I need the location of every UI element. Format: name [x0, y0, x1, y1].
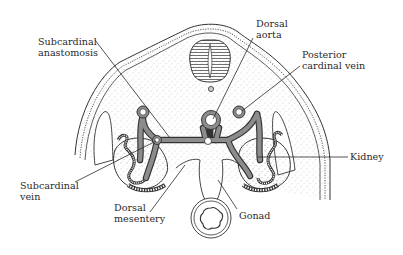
label-kidney: Kidney	[350, 151, 384, 162]
svg-text:cardinal vein: cardinal vein	[302, 60, 365, 71]
label-dorsal-aorta: Dorsal	[256, 18, 288, 29]
dorsal-aorta	[202, 111, 221, 130]
notochord	[208, 86, 213, 91]
embryo-cross-section-diagram: Subcardinal anastomosis Dorsal aorta Pos…	[0, 0, 403, 255]
svg-text:aorta: aorta	[256, 29, 282, 40]
label-posterior-cardinal-vein: Posterior	[302, 49, 347, 60]
neural-tube	[190, 40, 231, 82]
label-subcardinal-vein: Subcardinal	[20, 180, 79, 191]
svg-text:anastomosis: anastomosis	[38, 47, 98, 58]
label-dorsal-mesentery: Dorsal	[114, 202, 146, 213]
label-gonad: Gonad	[239, 210, 270, 221]
svg-text:vein: vein	[19, 191, 40, 202]
svg-text:mesentery: mesentery	[114, 213, 166, 224]
label-subcardinal-anastomosis: Subcardinal	[38, 36, 97, 47]
